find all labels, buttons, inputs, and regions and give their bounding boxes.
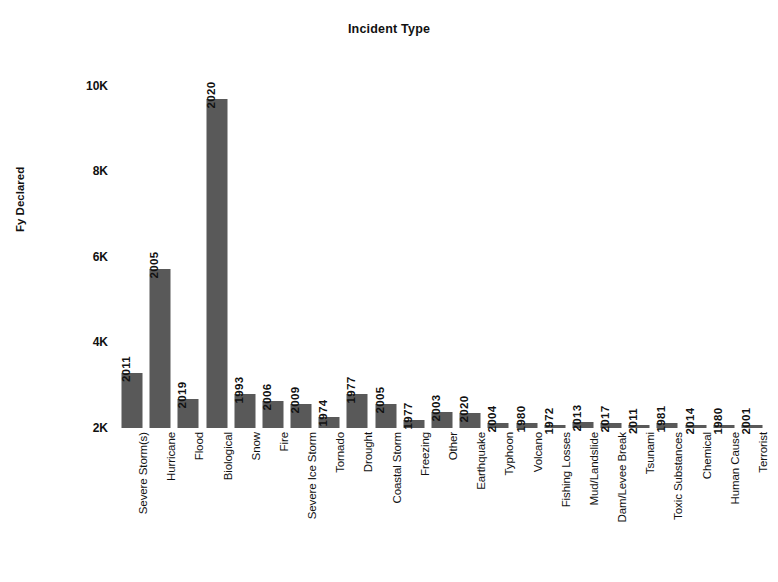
bar-value-label: 1974 <box>317 399 329 426</box>
bar-value-label: 2005 <box>374 387 386 414</box>
x-tick-label: Biological <box>222 432 234 480</box>
bar-value-label: 2001 <box>740 408 752 435</box>
y-tick-label: 10K <box>68 79 108 93</box>
bar[interactable] <box>206 99 227 428</box>
x-tick-label: Terrorist <box>757 432 769 473</box>
x-tick-label: Typhoon <box>503 432 515 475</box>
bar-value-label: 2019 <box>176 382 188 409</box>
bar-slot[interactable]: 2009 <box>287 60 315 428</box>
x-tick-label: Dam/Levee Break <box>616 432 628 523</box>
bar-slot[interactable]: 1972 <box>541 60 569 428</box>
bar-value-label: 2020 <box>458 395 470 422</box>
bar-value-label: 2011 <box>120 356 132 382</box>
x-tick-label: Flood <box>193 432 205 460</box>
bar-value-label: 1980 <box>712 408 724 435</box>
bar-value-label: 2014 <box>684 408 696 435</box>
bar-value-label: 2013 <box>571 405 583 432</box>
x-tick-label: Freezing <box>419 432 431 476</box>
y-tick-label: 8K <box>68 164 108 178</box>
x-tick-label: Tsunami <box>644 432 656 474</box>
bar-value-label: 2009 <box>289 387 301 414</box>
bar-value-label: 2005 <box>148 251 160 278</box>
chart-title: Incident Type <box>0 22 778 36</box>
bar-value-label: 2011 <box>627 408 639 434</box>
bar-value-label: 2020 <box>205 81 217 108</box>
bar-value-label: 2006 <box>261 384 273 411</box>
bar-slot[interactable]: 2005 <box>372 60 400 428</box>
bar-value-label: 2003 <box>430 394 442 421</box>
plot-area: 10K8K6K4K2K 2011200520192020199320062009… <box>118 60 766 428</box>
x-tick-label: Other <box>447 432 459 460</box>
x-tick-label: Snow <box>250 432 262 460</box>
y-tick-label: 2K <box>68 421 108 435</box>
bar-slot[interactable]: 1993 <box>231 60 259 428</box>
bar-value-label: 1981 <box>655 406 667 433</box>
bar-value-label: 2017 <box>599 405 611 432</box>
bar-slot[interactable]: 2004 <box>484 60 512 428</box>
x-tick-label: Earthquake <box>475 432 487 490</box>
bar-slot[interactable]: 2011 <box>118 60 146 428</box>
y-tick-label: 6K <box>68 250 108 264</box>
bar-slot[interactable]: 2014 <box>681 60 709 428</box>
bar-value-label: 1977 <box>402 403 414 430</box>
x-tick-label: Tornado <box>334 432 346 473</box>
bar-slot[interactable]: 2013 <box>569 60 597 428</box>
y-axis-label: Fy Declared <box>14 92 26 232</box>
bar-value-label: 2004 <box>486 405 498 432</box>
y-tick-label: 4K <box>68 335 108 349</box>
x-axis-labels: Severe Storm(s)HurricaneFloodBiologicalS… <box>118 432 766 582</box>
bar[interactable] <box>150 269 171 428</box>
bar-slot[interactable]: 1980 <box>710 60 738 428</box>
bar-slot[interactable]: 2003 <box>428 60 456 428</box>
bar-slot[interactable]: 1977 <box>343 60 371 428</box>
bar-slot[interactable]: 2011 <box>625 60 653 428</box>
bar-value-label: 1972 <box>543 408 555 435</box>
x-tick-label: Severe Ice Storm <box>306 432 318 519</box>
bar-value-label: 1993 <box>233 376 245 403</box>
bar-value-label: 1977 <box>345 377 357 404</box>
x-tick-label: Severe Storm(s) <box>137 432 149 514</box>
x-tick-label: Mud/Landslide <box>588 432 600 506</box>
x-tick-label: Hurricane <box>165 432 177 481</box>
x-tick-label: Fishing Losses <box>560 432 572 507</box>
bar-slot[interactable]: 1981 <box>653 60 681 428</box>
bar-slot[interactable]: 1977 <box>400 60 428 428</box>
bar-slot[interactable]: 2020 <box>456 60 484 428</box>
x-tick-label: Fire <box>278 432 290 451</box>
bar-value-label: 1980 <box>515 406 527 433</box>
x-tick-label: Coastal Storm <box>391 432 403 504</box>
bar-series: 2011200520192020199320062009197419772005… <box>118 60 766 428</box>
x-tick-label: Toxic Substances <box>672 432 684 520</box>
bar-slot[interactable]: 2017 <box>597 60 625 428</box>
x-tick-label: Drought <box>362 432 374 472</box>
bar-slot[interactable]: 2019 <box>174 60 202 428</box>
bar-slot[interactable]: 2020 <box>203 60 231 428</box>
x-tick-label: Chemical <box>701 432 713 479</box>
bar-slot[interactable]: 1974 <box>315 60 343 428</box>
bar-chart: Incident Type Fy Declared 10K8K6K4K2K 20… <box>0 0 778 582</box>
bar-slot[interactable]: 1980 <box>512 60 540 428</box>
x-tick-label: Human Cause <box>729 432 741 504</box>
bar-slot[interactable]: 2006 <box>259 60 287 428</box>
bar-slot[interactable]: 2005 <box>146 60 174 428</box>
bar-slot[interactable]: 2001 <box>738 60 766 428</box>
x-tick-label: Volcano <box>532 432 544 472</box>
